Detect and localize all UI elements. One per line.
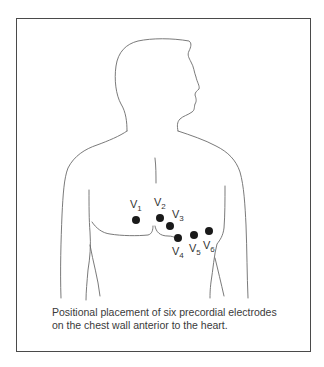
electrode-label: V5 — [189, 242, 201, 257]
figure-caption: Positional placement of six precordial e… — [52, 306, 292, 332]
right-shoulder-outline — [178, 131, 248, 298]
electrode-dot — [174, 234, 182, 242]
right-arm-inner — [215, 258, 224, 296]
electrode-dot — [132, 216, 140, 224]
electrode-label: V4 — [172, 245, 184, 260]
electrode-label: V3 — [172, 208, 184, 223]
left-shoulder-outline — [61, 131, 127, 298]
electrode-v1: V1 — [130, 198, 142, 224]
electrode-dot — [156, 214, 164, 222]
electrode-v4: V4 — [172, 234, 184, 260]
electrode-v2: V2 — [154, 196, 166, 222]
head-outline — [115, 39, 199, 131]
electrode-v5: V5 — [189, 231, 201, 257]
electrode-dot — [205, 227, 213, 235]
electrode-label: V1 — [130, 198, 142, 213]
electrode-label: V6 — [203, 239, 215, 254]
caption-line-2: on the chest wall anterior to the heart. — [52, 319, 292, 332]
electrode-dot — [166, 222, 174, 230]
electrode-v6: V6 — [203, 227, 215, 254]
sternum-line — [155, 158, 156, 183]
caption-line-1: Positional placement of six precordial e… — [52, 306, 292, 319]
right-chest-side — [210, 186, 225, 298]
electrode-dot — [190, 231, 198, 239]
left-arm-inner — [90, 245, 100, 296]
electrode-label: V2 — [154, 196, 166, 211]
electrode-v3: V3 — [166, 208, 184, 230]
left-pectoral-line — [92, 222, 153, 236]
